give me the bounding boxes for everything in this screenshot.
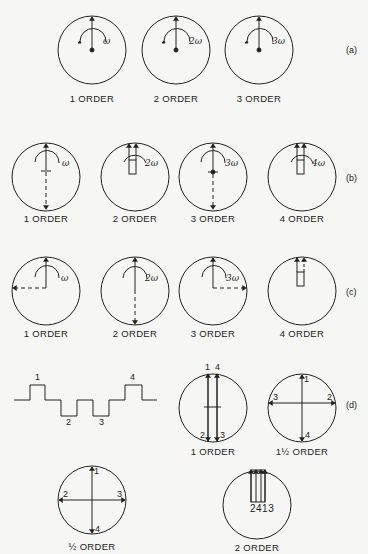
row-tag: (b) [346,173,357,183]
row-b-order-4 [268,143,336,211]
speed-label: 4ω [312,158,325,168]
speed-label: 3ω [226,273,239,283]
arrow-label: 3 [273,392,278,402]
row-d-order-half [58,466,126,534]
order-label: 1 ORDER [70,93,114,104]
order-label: 3 ORDER [191,328,235,339]
order-label: 4 ORDER [280,213,324,224]
waveform-label: 1 [35,372,40,382]
order-label: 1 ORDER [24,213,68,224]
waveform-label: 3 [99,417,104,427]
arrow-label: 4 [215,362,220,372]
order-label: 2 ORDER [235,542,279,553]
order-label: 2 ORDER [113,213,157,224]
arrow-label: 1 [304,374,309,384]
speed-label: ω [61,273,68,283]
arrow-label: 1 [205,362,210,372]
speed-label: 3ω [272,36,285,46]
step-waveform [14,385,157,416]
arrow-label: 1 [94,466,99,476]
vector-diagram [0,0,368,554]
speed-label: 2ω [189,36,202,46]
row-a-order-2 [142,16,210,84]
row-tag: (c) [346,287,357,297]
arrow-label: 2 [327,392,332,402]
order-label: 3 ORDER [237,93,281,104]
order-label: 1 ORDER [24,328,68,339]
order-label: 2 ORDER [113,328,157,339]
order-label: 1½ ORDER [276,446,329,457]
arrow-label: 3 [220,430,225,440]
arrow-label: 4 [95,524,100,534]
order-label: 2 ORDER [154,93,198,104]
speed-label: ω [62,158,69,168]
order-label: 3 ORDER [191,213,235,224]
row-c-order-1 [12,257,80,325]
speed-label: ω [103,36,110,46]
arrow-label: 2 [200,430,205,440]
speed-label: 2ω [145,273,158,283]
row-tag: (d) [346,400,357,410]
waveform-label: 2 [66,417,71,427]
row-b-order-1 [12,143,80,211]
order-label: 4 ORDER [280,328,324,339]
row-a-order-1 [58,16,126,84]
row-b-order-3 [179,143,247,211]
speed-label: 2ω [145,158,158,168]
arrow-label: 4 [305,430,310,440]
row-a-order-3 [225,16,293,84]
speed-label: 3ω [225,158,238,168]
arrow-label: 2 [63,489,68,499]
row-c-order-2 [101,257,169,325]
row-d-order-1-5 [268,374,336,442]
row-b-order-2 [101,143,169,211]
order-label: ½ ORDER [69,541,116,552]
order-label: 1 ORDER [191,446,235,457]
arrow-label: 2413 [250,503,274,514]
row-c-order-3 [179,257,247,325]
row-c-order-4 [268,257,336,325]
row-d-order-1 [179,374,247,442]
waveform-label: 4 [130,372,135,382]
arrow-label: 3 [117,489,122,499]
row-tag: (a) [346,45,357,55]
